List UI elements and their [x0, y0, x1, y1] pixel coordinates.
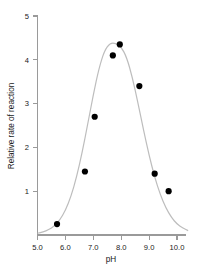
x-tick-label: 5.0 — [32, 243, 43, 252]
data-point — [82, 168, 88, 174]
chart-container: 12345 5.06.07.08.09.010.0 pH Relative ra… — [0, 0, 200, 273]
y-axis-tick-marks — [33, 16, 38, 191]
y-axis-tick-labels: 12345 — [25, 12, 29, 196]
data-point — [136, 83, 142, 89]
x-tick-label: 8.0 — [116, 243, 127, 252]
data-points — [54, 41, 172, 227]
reaction-rate-vs-ph-chart: 12345 5.06.07.08.09.010.0 pH Relative ra… — [0, 0, 200, 273]
x-tick-label: 6.0 — [60, 243, 71, 252]
x-tick-label: 9.0 — [144, 243, 155, 252]
y-tick-label: 2 — [25, 143, 29, 152]
y-axis-title: Relative rate of reaction — [7, 82, 16, 169]
fitted-curve — [38, 43, 189, 233]
y-tick-label: 1 — [25, 187, 29, 196]
x-axis-title: pH — [106, 255, 117, 264]
data-point — [166, 188, 172, 194]
data-point — [152, 171, 158, 177]
data-point — [92, 114, 98, 120]
x-tick-label: 10.0 — [170, 243, 185, 252]
x-axis-tick-marks — [38, 235, 178, 240]
data-point — [54, 221, 60, 227]
y-tick-label: 3 — [25, 99, 29, 108]
y-tick-label: 5 — [25, 12, 29, 21]
x-axis-tick-labels: 5.06.07.08.09.010.0 — [32, 243, 184, 252]
x-axis: 5.06.07.08.09.010.0 — [32, 235, 186, 252]
y-axis: 12345 — [25, 12, 38, 235]
data-point — [110, 52, 116, 58]
data-point — [117, 41, 123, 47]
x-tick-label: 7.0 — [88, 243, 99, 252]
y-tick-label: 4 — [25, 56, 29, 65]
